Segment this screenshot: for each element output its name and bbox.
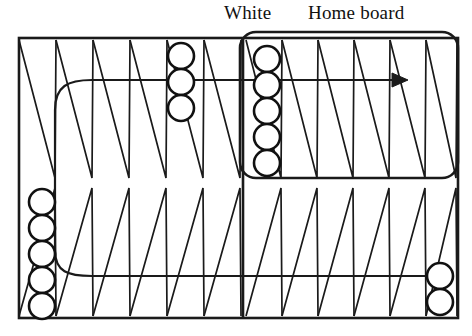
checker bbox=[168, 43, 194, 69]
checker bbox=[254, 150, 280, 176]
checker bbox=[29, 189, 55, 215]
checker-stack-home-board bbox=[254, 46, 280, 176]
checker-stack-lower-right bbox=[427, 263, 453, 315]
points-lower-right bbox=[246, 188, 457, 316]
checker bbox=[427, 289, 453, 315]
movement-arrow-head bbox=[392, 73, 408, 87]
checker bbox=[168, 95, 194, 121]
lower-route-line bbox=[55, 180, 440, 276]
checker bbox=[29, 241, 55, 267]
checker bbox=[29, 293, 55, 319]
checker bbox=[29, 267, 55, 293]
checker-stack-lower-left bbox=[29, 189, 55, 319]
checker bbox=[254, 72, 280, 98]
points-upper-left bbox=[19, 40, 241, 178]
backgammon-diagram: White Home board bbox=[0, 0, 472, 336]
checker bbox=[427, 263, 453, 289]
checker bbox=[254, 46, 280, 72]
checker bbox=[168, 69, 194, 95]
board-graphic bbox=[0, 0, 472, 336]
checker bbox=[29, 215, 55, 241]
checker bbox=[254, 124, 280, 150]
checker bbox=[254, 98, 280, 124]
checker-stack-upper-left bbox=[168, 43, 194, 121]
